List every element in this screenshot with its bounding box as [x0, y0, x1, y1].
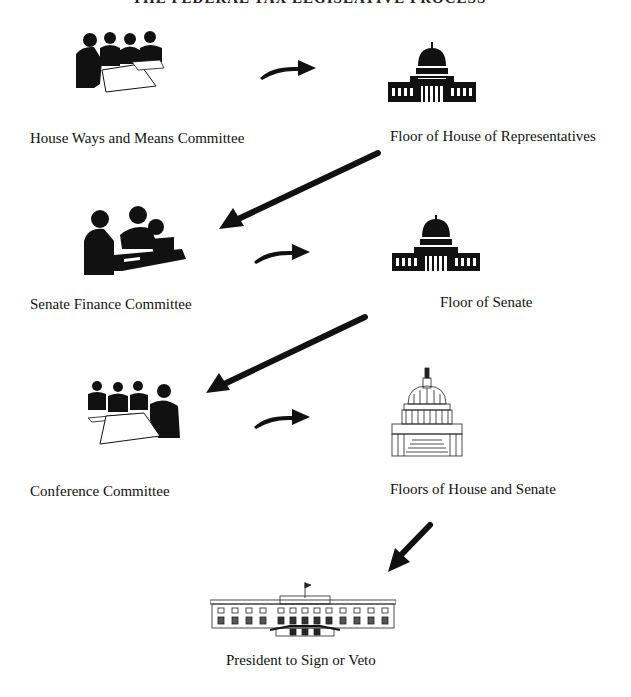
committee-meeting-icon — [72, 30, 172, 95]
curved-arrow-icon — [252, 242, 312, 266]
committee-meeting-icon — [78, 205, 188, 280]
curved-arrow-icon — [258, 58, 318, 82]
curved-arrow-icon — [252, 407, 312, 431]
step-label: Floor of House of Representatives — [390, 128, 596, 145]
step-label: Floor of Senate — [440, 294, 532, 311]
diagram-title: THE FEDERAL TAX LEGISLATIVE PROCESS — [132, 0, 492, 4]
capitol-dome-icon — [390, 366, 466, 460]
step-label: Senate Finance Committee — [30, 296, 192, 313]
capitol-building-icon — [388, 42, 476, 104]
step-label: President to Sign or Veto — [226, 652, 376, 669]
capitol-building-icon — [391, 215, 481, 271]
step-label: House Ways and Means Committee — [30, 130, 244, 147]
committee-meeting-icon — [86, 380, 182, 446]
white-house-icon — [210, 582, 396, 638]
step-label: Floors of House and Senate — [390, 481, 556, 498]
step-label: Conference Committee — [30, 483, 170, 500]
